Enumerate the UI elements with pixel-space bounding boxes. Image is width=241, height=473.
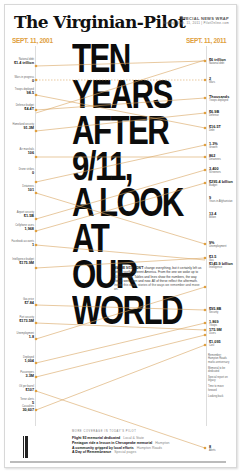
barcode: [23, 436, 32, 458]
stat-2001: Defense budget$4.4T: [6, 104, 34, 111]
stat-label: Billion: [209, 216, 216, 219]
stat-label: Alerts: [209, 449, 216, 452]
stat-2001: Passengers3.3M: [6, 371, 34, 378]
headline-line: AT: [72, 218, 166, 254]
headline-line: AFTER: [72, 110, 166, 146]
stat-value: 30,607: [6, 408, 34, 412]
stat-2001: National debt$1.4 trillion: [6, 58, 34, 65]
stat-2011: 175.9MUsers: [209, 328, 239, 335]
stat-label: Defense: [209, 114, 219, 117]
date-2001: SEPT. 11, 2001: [12, 36, 53, 45]
timeline-2001-rule: [35, 46, 36, 426]
sidebar-teaser[interactable]: Special report on legacy: [208, 376, 230, 383]
stat-2011: $145.9 billionIntelligence: [209, 262, 239, 269]
sidebar-teaser[interactable]: Remember: Hampton Roads marks anniversar…: [208, 354, 230, 364]
headline-line: 9/11,: [72, 146, 166, 182]
stat-value: $4.4T: [6, 107, 34, 111]
stat-label: Detainees: [209, 158, 221, 161]
sidebar-teaser[interactable]: Memorial to be dedicated: [208, 367, 230, 374]
stat-2011: 1,869Troops: [209, 320, 239, 327]
stat-value: 1: [6, 243, 34, 247]
stat-value: 1,004: [6, 359, 34, 363]
stat-value: 106: [6, 151, 34, 155]
stat-2001: Gas price$7.84: [6, 298, 34, 305]
special-wrap-label: SPECIAL NEWS WRAP Sunday, Sept. 11, 2011…: [163, 16, 229, 26]
intro-paragraph: MAYBE 9/11 DIDN'T change everything, but…: [114, 266, 202, 292]
stat-value: 98.5: [6, 91, 34, 95]
sidebar-teaser[interactable]: Looking back: [208, 395, 230, 398]
stat-value: $173.5M: [6, 319, 34, 323]
stat-label: Screeners: [209, 171, 221, 174]
stat-label: Troops: [209, 324, 217, 327]
stat-2001: Airport security$1.5B: [6, 211, 34, 218]
stat-label: Budget: [209, 184, 217, 187]
stat-label: Growth: [209, 146, 217, 149]
timeline-2011-rule: [206, 46, 207, 426]
inside-item[interactable]: A Day of RemembranceSpecial pages: [72, 450, 202, 455]
headline-line: A LOOK: [72, 182, 166, 218]
stat-value: 1,968: [6, 227, 34, 231]
stat-2001: Cellphone users1,968: [6, 224, 34, 231]
inside-item-section: Hampton Roads: [137, 446, 162, 450]
stat-value: 101: [6, 188, 34, 192]
stat-value: $7.84: [6, 301, 34, 305]
intro-credit: Inside this wrap: stories of the ways we…: [114, 283, 202, 292]
stat-label: Intelligence: [209, 266, 222, 269]
inside-item-section: Hampton: [155, 441, 169, 445]
stat-value: $1.4 trillion: [6, 61, 34, 65]
stat-2001: Intelligence budget$175.9M: [6, 258, 34, 265]
stat-2011: 862Detainees: [209, 154, 239, 161]
stat-2001: Homeland security91.3M: [6, 123, 34, 130]
stat-2001: Drone strikes0: [6, 168, 34, 175]
stat-value: $107: [6, 388, 34, 392]
inside-item-title: A community gripped by local efforts: [72, 446, 134, 450]
inside-item-title: A Day of Remembrance: [72, 450, 111, 454]
masthead: The Virginian-Pilot SPECIAL NEWS WRAP Su…: [14, 12, 229, 34]
stat-2001: Wars in progress0: [6, 76, 34, 83]
stat-2001: Detainees101: [6, 185, 34, 192]
stat-2011: 1.3%Growth: [209, 142, 239, 149]
stat-label: Facebook accounts: [12, 240, 35, 243]
stat-2011: $16.5TDebt: [209, 125, 239, 132]
stat-2011: 8Alerts: [209, 445, 239, 452]
headline-line: WORLD: [72, 290, 166, 326]
stat-2011: ThousandsTroops deployed: [209, 95, 239, 102]
stat-value: 3.3M: [6, 374, 34, 378]
stat-2011: 9Years in Afghanistan: [209, 196, 239, 203]
inside-item-section: Special pages: [114, 450, 136, 454]
newspaper-title: The Virginian-Pilot: [14, 12, 185, 32]
stat-2001: Air marshals106: [6, 148, 34, 155]
stat-value: 1.8: [6, 335, 34, 339]
stat-value: 0: [6, 171, 34, 175]
headline-line: YEARS: [72, 74, 166, 110]
stat-label: Debt: [209, 129, 214, 132]
stat-value: 91.3M: [6, 126, 34, 130]
stat-2011: $6 trillionNational debt: [209, 58, 239, 65]
stat-2011: $295.4 billionBudget: [209, 180, 239, 187]
stat-2001: Oil per barrel$107: [6, 385, 34, 392]
sidebar-teaser[interactable]: Time to move forward: [208, 385, 230, 392]
tag-subtext: Sunday, Sept. 11, 2011 | PilotOnline.com: [163, 21, 229, 26]
stat-2001: Unemployment1.8: [6, 332, 34, 339]
stat-2001: Deployed1,004: [6, 356, 34, 363]
stat-2001: Facebook accounts1: [6, 240, 34, 247]
stat-value: $1.5B: [6, 214, 34, 218]
inside-item-title: Flight 93 memorial dedicated: [72, 436, 120, 440]
stat-2001: Port security$173.5M: [6, 316, 34, 323]
stat-2011: 13.4Billion: [209, 212, 239, 219]
stat-2011: 9%Unemployment: [209, 241, 239, 248]
date-2011: SEPT. 11, 2011: [186, 36, 226, 45]
inside-coverage: MORE COVERAGE IN TODAY'S PILOT Flight 93…: [72, 430, 202, 455]
inside-item-section: Local & State: [123, 436, 144, 440]
stat-2011: $6.9BDefense: [209, 110, 239, 117]
sidebar-teasers: Remember: Hampton Roads marks anniversar…: [208, 354, 230, 401]
stat-2001: Troops deployed98.5: [6, 88, 34, 95]
inside-heading: MORE COVERAGE IN TODAY'S PILOT: [72, 430, 202, 433]
stat-label: Troops deployed: [209, 99, 228, 102]
stat-label: Cost: [209, 344, 214, 347]
stat-label: National debt: [209, 62, 224, 65]
stat-value: 0: [6, 79, 34, 83]
inside-item-title: Pentagon ride a lesson in Chesapeake mem…: [72, 441, 152, 445]
stat-2011: 3,400Screeners: [209, 167, 239, 174]
headline-line: TEN: [72, 38, 166, 74]
